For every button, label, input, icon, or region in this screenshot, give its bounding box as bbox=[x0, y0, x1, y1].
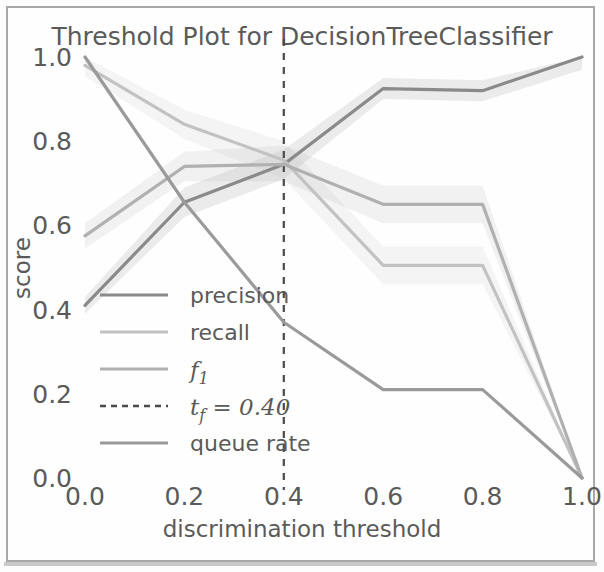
y-tick-label: 0.8 bbox=[32, 127, 72, 156]
legend-label-recall: recall bbox=[190, 320, 250, 345]
y-axis-tick-labels: 0.00.20.40.60.81.0 bbox=[32, 43, 72, 493]
x-tick-label: 1.0 bbox=[562, 482, 602, 511]
chart-legend: precisionrecallf1tf = 0.40queue rate bbox=[100, 283, 311, 456]
x-tick-label: 0.8 bbox=[463, 482, 503, 511]
x-tick-label: 0.0 bbox=[65, 482, 105, 511]
chart-svg: Threshold Plot for DecisionTreeClassifie… bbox=[0, 0, 604, 572]
threshold-plot-figure: Threshold Plot for DecisionTreeClassifie… bbox=[0, 0, 604, 572]
y-axis-title: score bbox=[9, 237, 35, 299]
x-tick-label: 0.6 bbox=[363, 482, 403, 511]
legend-label-precision: precision bbox=[190, 283, 289, 308]
y-tick-label: 1.0 bbox=[32, 43, 72, 72]
chart-title: Threshold Plot for DecisionTreeClassifie… bbox=[50, 22, 553, 51]
screenshot-page: Threshold Plot for DecisionTreeClassifie… bbox=[0, 0, 604, 572]
y-tick-label: 0.2 bbox=[32, 380, 72, 409]
x-axis-title: discrimination threshold bbox=[163, 516, 442, 542]
y-tick-label: 0.4 bbox=[32, 296, 72, 325]
y-tick-label: 0.6 bbox=[32, 211, 72, 240]
legend-label-queue-rate: queue rate bbox=[190, 431, 311, 456]
confidence-bands bbox=[85, 57, 582, 478]
x-tick-label: 0.4 bbox=[264, 482, 304, 511]
legend-label-threshold: tf = 0.40 bbox=[190, 394, 290, 425]
x-tick-label: 0.2 bbox=[165, 482, 205, 511]
legend-label-f1: f1 bbox=[188, 357, 209, 388]
x-axis-tick-labels: 0.00.20.40.60.81.0 bbox=[65, 482, 602, 511]
